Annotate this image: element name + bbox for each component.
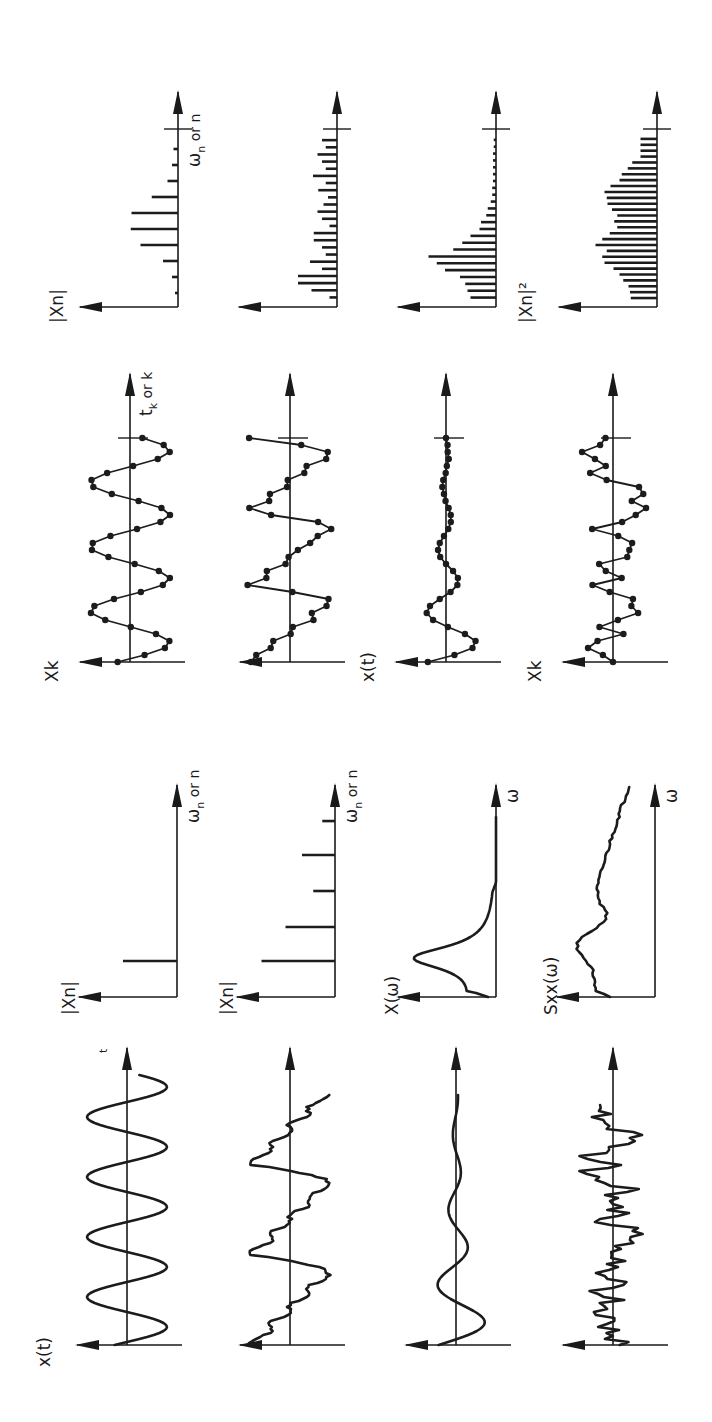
dft-frequency-label: ωn or n	[184, 114, 208, 167]
arrowhead-icon	[491, 783, 501, 807]
sample-dot	[450, 568, 456, 574]
arrowhead-icon	[491, 90, 501, 114]
sample-dot	[104, 470, 110, 476]
sample-dot	[629, 498, 635, 504]
arrowhead-icon	[608, 1046, 618, 1070]
arrowhead-icon	[451, 1046, 461, 1070]
sample-dot	[425, 659, 431, 665]
sample-dot	[298, 442, 304, 448]
sample-dot	[102, 617, 108, 623]
sample-dot	[134, 526, 140, 532]
dft-complex-periodic	[237, 90, 351, 312]
sample-dot	[423, 610, 429, 616]
sample-dot	[167, 449, 173, 455]
arrowhead-icon	[77, 992, 101, 1002]
sample-dot	[437, 540, 443, 546]
sample-dot	[603, 568, 609, 574]
sample-dot	[636, 484, 642, 490]
sample-dot	[325, 449, 331, 455]
arrowhead-icon	[650, 783, 660, 807]
sample-dot	[89, 547, 95, 553]
sample-dot	[290, 624, 296, 630]
sample-dot	[156, 568, 162, 574]
dft-amplitude-label: |Xn|	[47, 289, 67, 323]
sample-dot	[437, 596, 443, 602]
sample-dot	[585, 645, 591, 651]
sample-dot	[443, 435, 449, 441]
arrowhead-icon	[78, 657, 102, 667]
sample-dot	[325, 596, 331, 602]
sample-dot	[282, 561, 288, 567]
sample-dot	[624, 554, 630, 560]
sample-dot	[138, 589, 144, 595]
arrowhead-icon	[404, 1340, 428, 1350]
frequency-axis-label: ω	[661, 789, 681, 803]
sample-dot	[266, 498, 272, 504]
sample-dot	[441, 491, 447, 497]
sample-dot	[629, 540, 635, 546]
dft-random: |Xn|²	[516, 90, 671, 323]
sample-dot	[630, 596, 636, 602]
sample-dot	[160, 442, 166, 448]
spectrum-curve	[414, 817, 496, 997]
dft-amplitude-label: |Xn|²	[516, 282, 536, 323]
spectrum-periodic-sine: |Xn|ωn or n	[59, 770, 207, 1015]
signal-curve	[249, 1095, 331, 1345]
sample-dot	[443, 470, 449, 476]
spectrum-amplitude-label: Sxx(ω)	[541, 957, 561, 1015]
sample-dot	[455, 575, 461, 581]
time-history-periodic-sine: tx(t)	[34, 1046, 182, 1367]
arrowhead-icon	[122, 1046, 132, 1070]
sample-dot	[454, 582, 460, 588]
dft-transient	[396, 90, 510, 312]
sampled-random: Xk	[525, 372, 668, 682]
sample-dot	[469, 645, 475, 651]
sample-dot	[246, 505, 252, 511]
sample-dot	[440, 477, 446, 483]
arrowhead-icon	[332, 90, 342, 114]
sample-dot	[315, 519, 321, 525]
sample-dot	[167, 512, 173, 518]
arrowhead-icon	[561, 657, 585, 667]
sample-dot	[615, 533, 621, 539]
sample-dot	[445, 624, 451, 630]
sample-dot	[310, 617, 316, 623]
sample-dot	[445, 505, 451, 511]
sampled-complex-periodic	[238, 372, 345, 667]
sample-dot	[603, 463, 609, 469]
signal-curve	[438, 1095, 485, 1345]
arrowhead-icon	[441, 372, 451, 396]
arrowhead-icon	[78, 302, 102, 312]
sample-dot	[444, 442, 450, 448]
frequency-axis-label: ωn or n	[183, 770, 207, 823]
sample-dot	[447, 589, 453, 595]
sample-dot	[430, 617, 436, 623]
sample-dot	[472, 638, 478, 644]
sample-dot	[603, 477, 609, 483]
sample-dot	[301, 470, 307, 476]
sample-dot	[618, 575, 624, 581]
sample-amplitude-label: Xk	[525, 660, 545, 682]
sample-dot	[270, 638, 276, 644]
spectrum-amplitude-label: X(ω)	[382, 976, 402, 1015]
sample-dot	[435, 547, 441, 553]
sample-dot	[626, 547, 632, 553]
time-axis-label: t	[97, 1048, 110, 1053]
sample-dot	[153, 631, 159, 637]
sample-dot	[596, 561, 602, 567]
spectrum-amplitude-label: |Xn|	[59, 981, 79, 1015]
sample-dot	[88, 610, 94, 616]
sample-dot	[442, 498, 448, 504]
sample-dot	[589, 582, 595, 588]
sample-dot	[253, 652, 259, 658]
time-history-transient	[404, 1046, 511, 1350]
sample-dot	[579, 449, 585, 455]
sample-dot	[628, 603, 634, 609]
amplitude-axis-label: x(t)	[34, 1337, 54, 1367]
arrowhead-icon	[394, 657, 418, 667]
sampled-curve	[427, 438, 476, 662]
sample-dot	[451, 652, 457, 658]
arrowhead-icon	[652, 90, 662, 114]
sample-dot	[90, 484, 96, 490]
sample-dot	[162, 645, 168, 651]
